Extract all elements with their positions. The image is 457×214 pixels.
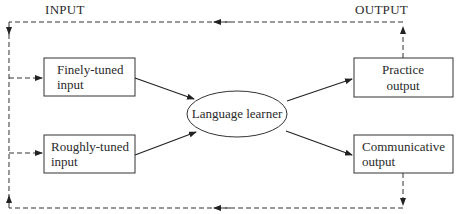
communicative-label-line1: Communicative [362, 139, 445, 154]
finely-tuned-input-node: Finely-tuned input [44, 58, 135, 96]
communicative-label-line2: output [362, 154, 396, 169]
finely-tuned-label-line2: input [57, 77, 84, 92]
input-header: INPUT [45, 2, 85, 17]
practice-label-line2: output [386, 78, 420, 93]
roughly-to-learner-arrow [135, 132, 196, 155]
bottom-feedback-loop [9, 173, 403, 208]
output-header: OUTPUT [355, 2, 408, 17]
language-learner-node: Language learner [187, 91, 287, 137]
roughly-tuned-label-line1: Roughly-tuned [51, 139, 129, 154]
practice-label-line1: Practice [382, 62, 424, 77]
practice-output-node: Practice output [354, 58, 453, 97]
left-feedback-spine [9, 22, 42, 208]
diagram-canvas: INPUT OUTPUT Finely-tuned input Roughly-… [0, 0, 457, 214]
communicative-output-node: Communicative output [354, 135, 453, 173]
finely-to-learner-arrow [135, 78, 194, 99]
finely-tuned-label-line1: Finely-tuned [57, 62, 124, 77]
roughly-tuned-label-line2: input [51, 154, 78, 169]
learner-to-practice-arrow [287, 79, 352, 101]
language-learner-label: Language learner [192, 106, 283, 121]
learner-to-communicative-arrow [286, 131, 352, 155]
top-feedback-loop [9, 22, 403, 58]
roughly-tuned-input-node: Roughly-tuned input [44, 135, 135, 173]
